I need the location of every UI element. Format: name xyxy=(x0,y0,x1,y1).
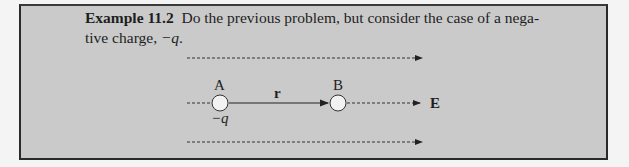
field-diagram: A B r −q E xyxy=(0,0,629,167)
vector-r-label: r xyxy=(274,85,281,101)
charge-label: −q xyxy=(211,110,229,126)
field-e-label: E xyxy=(430,95,440,111)
point-b-circle xyxy=(330,95,346,111)
point-a-label: A xyxy=(214,77,225,93)
point-a-circle xyxy=(212,95,228,111)
point-b-label: B xyxy=(333,77,343,93)
